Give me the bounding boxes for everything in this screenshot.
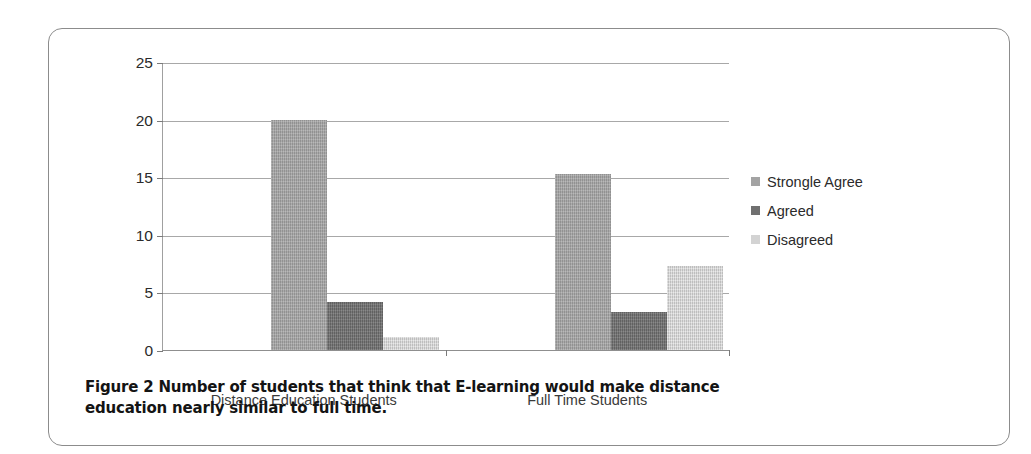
bar (611, 312, 667, 350)
legend-item-label: Disagreed (767, 232, 833, 248)
figure-panel: 0510152025 Distance Education StudentsFu… (48, 28, 1010, 446)
y-axis-tick-label: 5 (144, 285, 153, 301)
figure-caption-text: Number of students that think that E-lea… (85, 378, 719, 417)
bar (327, 302, 383, 350)
y-axis-tick-label: 15 (136, 170, 153, 186)
figure-caption-label: Figure 2 (85, 378, 153, 396)
figure-caption: Figure 2 Number of students that think t… (85, 377, 785, 420)
legend-swatch-agreed (751, 206, 760, 215)
legend-item-label: Agreed (767, 203, 814, 219)
legend-item: Strongle Agree (751, 167, 961, 196)
y-axis-tick-mark (157, 121, 163, 122)
gridline (162, 293, 729, 294)
x-axis-tick-mark (729, 350, 730, 356)
plot-area: Distance Education StudentsFull Time Stu… (162, 63, 729, 351)
legend-item: Disagreed (751, 225, 961, 254)
gridline (162, 236, 729, 237)
y-axis-tick-mark (157, 293, 163, 294)
legend-swatch-strongle-agree (751, 177, 760, 186)
y-axis-tick-label: 10 (136, 228, 153, 244)
gridline (162, 63, 729, 64)
gridline (162, 178, 729, 179)
legend-swatch-disagreed (751, 235, 760, 244)
y-axis-tick-mark (157, 351, 163, 352)
bar (667, 266, 723, 350)
bar (555, 174, 611, 350)
y-axis-line (162, 63, 163, 351)
bar (271, 120, 327, 350)
bar (383, 337, 439, 350)
y-axis-tick-mark (157, 178, 163, 179)
x-axis-tick-mark (446, 350, 447, 356)
legend-item: Agreed (751, 196, 961, 225)
gridline (162, 121, 729, 122)
y-axis-tick-mark (157, 236, 163, 237)
y-axis-tick-mark (157, 63, 163, 64)
y-axis-tick-label: 0 (144, 343, 153, 359)
y-axis-tick-label: 20 (136, 113, 153, 129)
y-axis-tick-label: 25 (136, 55, 153, 71)
chart-legend: Strongle AgreeAgreedDisagreed (751, 167, 961, 254)
y-axis-tick-labels: 0510152025 (95, 63, 153, 351)
legend-item-label: Strongle Agree (767, 174, 863, 190)
